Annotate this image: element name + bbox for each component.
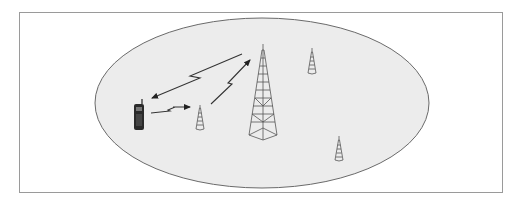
cellular-network-diagram [0,0,527,204]
cell-coverage-area [95,18,429,188]
